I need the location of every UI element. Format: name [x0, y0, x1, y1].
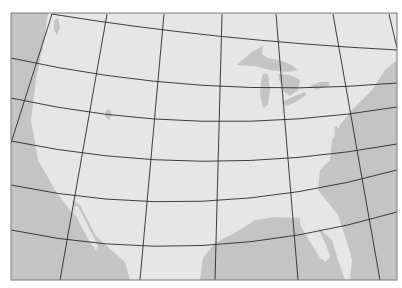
map-container [0, 0, 402, 288]
us-conic-map [0, 0, 402, 288]
